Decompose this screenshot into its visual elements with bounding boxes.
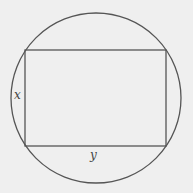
diagram-canvas: x y (0, 0, 193, 193)
label-y: y (89, 148, 97, 162)
label-x: x (14, 88, 21, 102)
inscribed-rectangle (25, 50, 166, 146)
